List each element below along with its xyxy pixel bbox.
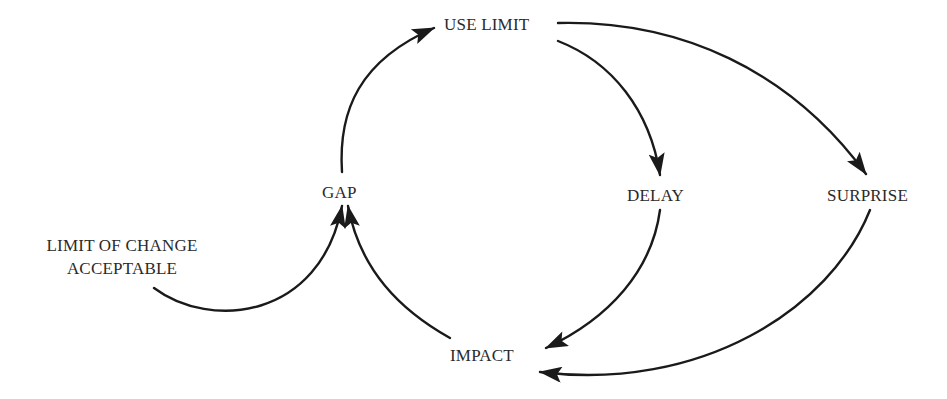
node-use-limit: USE LIMIT xyxy=(444,15,529,35)
edge-gap-to-use-limit xyxy=(342,28,434,172)
edge-use-limit-to-delay xyxy=(558,41,660,175)
edge-impact-to-gap xyxy=(348,206,450,338)
causal-loop-diagram: USE LIMIT GAP DELAY SURPRISE IMPACT LIMI… xyxy=(0,0,947,399)
edge-delay-to-impact xyxy=(546,210,660,348)
node-delay: DELAY xyxy=(627,186,684,206)
edge-use-limit-to-surprise xyxy=(558,23,866,174)
diagram-edges xyxy=(0,0,947,399)
node-limit-of-change-acceptable: LIMIT OF CHANGE ACCEPTABLE xyxy=(30,236,214,279)
node-limit-line-2: ACCEPTABLE xyxy=(30,259,214,279)
node-gap: GAP xyxy=(322,183,357,203)
edge-surprise-to-impact xyxy=(540,210,870,375)
node-limit-line-1: LIMIT OF CHANGE xyxy=(30,236,214,256)
node-surprise: SURPRISE xyxy=(827,186,908,206)
node-impact: IMPACT xyxy=(450,346,514,366)
